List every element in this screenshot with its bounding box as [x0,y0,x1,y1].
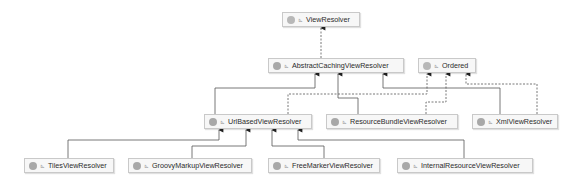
class-icon [331,118,339,126]
edge-tiles-to-url-based [68,130,219,158]
visibility-icon: ⊾ [284,62,289,69]
edge-internal-resource-to-url-based [298,130,464,158]
visibility-icon: ⊾ [434,62,439,69]
abstract-class-icon [273,62,281,70]
node-url-based-view-resolver[interactable]: ⊾ UrlBasedViewResolver [204,114,312,129]
node-xml-view-resolver[interactable]: ⊾ XmlViewResolver [472,114,558,129]
edge-resource-bundle-to-abstract-caching [338,74,358,114]
node-tiles-view-resolver[interactable]: ⊾ TilesViewResolver [24,158,114,173]
visibility-icon: ⊾ [413,162,418,169]
visibility-icon: ⊾ [342,118,347,125]
interface-icon [423,62,431,70]
visibility-icon: ⊾ [40,162,45,169]
node-ordered[interactable]: ⊾ Ordered [418,58,476,73]
visibility-icon: ⊾ [284,162,289,169]
interface-icon [287,16,295,24]
node-label: GroovyMarkupViewResolver [152,161,243,170]
visibility-icon: ⊾ [488,118,493,125]
node-label: UrlBasedViewResolver [228,117,301,126]
node-resource-bundle-view-resolver[interactable]: ⊾ ResourceBundleViewResolver [326,114,458,129]
class-icon [273,162,281,170]
visibility-icon: ⊾ [144,162,149,169]
edge-xml-to-ordered [466,74,537,114]
class-icon [29,162,37,170]
node-label: InternalResourceViewResolver [421,161,520,170]
node-freemarker-view-resolver[interactable]: ⊾ FreeMarkerViewResolver [268,158,380,173]
edge-xml-to-abstract-caching [383,74,500,114]
class-icon [477,118,485,126]
node-view-resolver[interactable]: ⊾ ViewResolver [282,12,360,27]
node-abstract-caching-view-resolver[interactable]: ⊾ AbstractCachingViewResolver [268,58,404,73]
node-label: ViewResolver [306,15,350,24]
class-icon [133,162,141,170]
node-label: FreeMarkerViewResolver [292,161,373,170]
class-icon [402,162,410,170]
edge-url-based-to-ordered [288,74,427,114]
node-groovy-markup-view-resolver[interactable]: ⊾ GroovyMarkupViewResolver [128,158,252,173]
class-icon [209,118,217,126]
node-label: TilesViewResolver [48,161,107,170]
edge-resource-bundle-to-ordered [426,74,446,114]
visibility-icon: ⊾ [298,16,303,23]
class-hierarchy-diagram: ⊾ ViewResolver ⊾ AbstractCachingViewReso… [0,0,576,186]
node-label: AbstractCachingViewResolver [292,61,389,70]
node-internal-resource-view-resolver[interactable]: ⊾ InternalResourceViewResolver [397,158,533,173]
node-label: XmlViewResolver [496,117,552,126]
node-label: ResourceBundleViewResolver [350,117,447,126]
visibility-icon: ⊾ [220,118,225,125]
node-label: Ordered [442,61,468,70]
